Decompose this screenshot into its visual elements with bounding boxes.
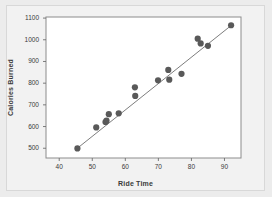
- y-tick-label: 1000: [15, 36, 39, 43]
- data-point: [132, 93, 138, 99]
- data-point: [178, 71, 184, 77]
- x-axis-title: Ride Time: [118, 180, 153, 187]
- scatter-plot-figure: 50060070080090010001100 405060708090 Cal…: [0, 0, 272, 197]
- data-point: [132, 84, 138, 90]
- x-tick-label: 50: [82, 163, 102, 170]
- data-point: [74, 145, 80, 151]
- data-point: [103, 118, 109, 124]
- y-tick-label: 700: [15, 101, 39, 108]
- plot-area-background: [46, 17, 241, 158]
- data-point: [93, 124, 99, 130]
- y-tick-label: 900: [15, 57, 39, 64]
- x-tick-label: 90: [214, 163, 234, 170]
- data-point: [198, 40, 204, 46]
- data-point: [155, 77, 161, 83]
- y-tick-label: 500: [15, 144, 39, 151]
- data-point: [166, 77, 172, 83]
- data-point: [165, 67, 171, 73]
- data-point: [228, 22, 234, 28]
- y-tick-label: 1100: [15, 14, 39, 21]
- data-point: [205, 43, 211, 49]
- y-tick-label: 800: [15, 79, 39, 86]
- x-tick-label: 80: [181, 163, 201, 170]
- x-tick-label: 70: [148, 163, 168, 170]
- x-tick-label: 60: [115, 163, 135, 170]
- x-tick-label: 40: [49, 163, 69, 170]
- data-point: [116, 110, 122, 116]
- y-axis-title: Calories Burned: [7, 52, 14, 124]
- data-point: [106, 111, 112, 117]
- y-tick-label: 600: [15, 123, 39, 130]
